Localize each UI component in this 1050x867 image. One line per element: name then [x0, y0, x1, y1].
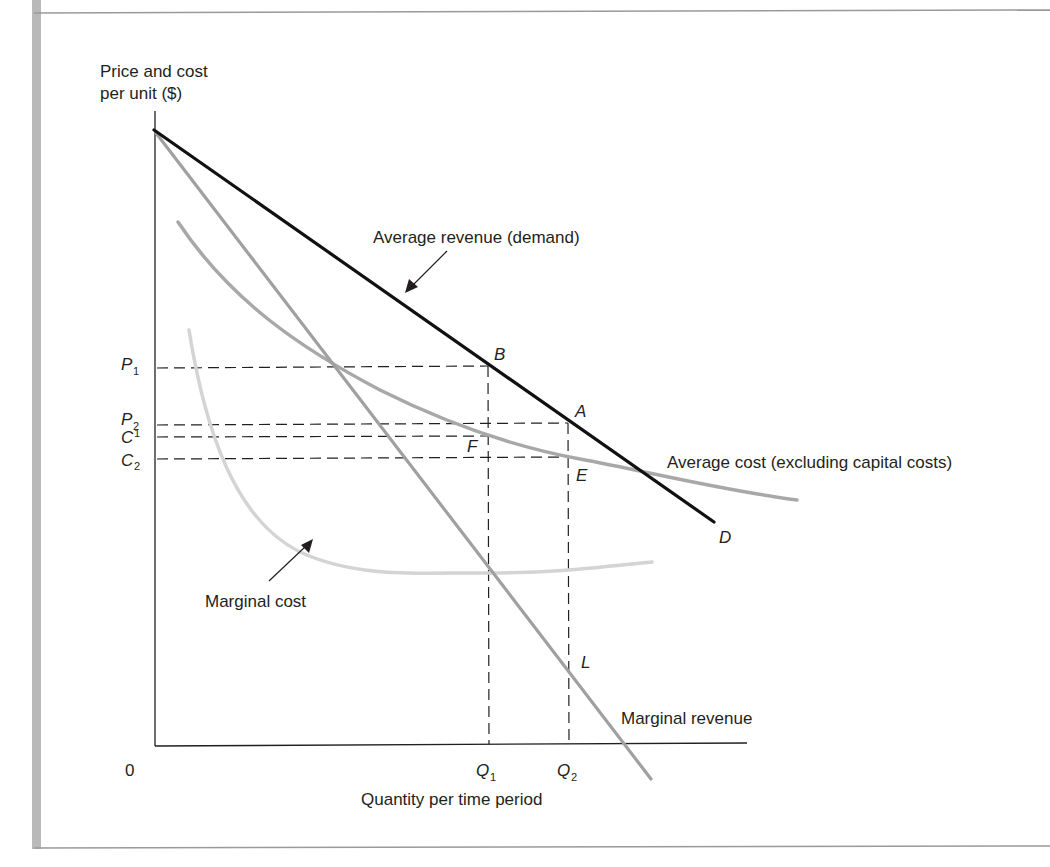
q2-guide — [568, 423, 569, 744]
p2-guide — [157, 423, 568, 425]
q1-guide — [488, 366, 489, 744]
y-tick-c2: C 2 — [121, 451, 140, 472]
x-tick-q2: Q 2 — [557, 761, 577, 783]
p1-guide — [157, 366, 488, 368]
average-cost-label: Average cost (excluding capital costs) — [667, 453, 952, 472]
point-e-label: E — [576, 466, 588, 485]
y-tick-p1: P 1 — [121, 355, 139, 377]
x-tick-q1: Q 1 — [476, 761, 496, 783]
page-side-bar — [32, 0, 41, 849]
demand-arrow-icon — [405, 251, 447, 293]
x-axis-label: Quantity per time period — [361, 790, 542, 809]
bottom-rule — [34, 846, 1050, 848]
point-b-label: B — [494, 345, 505, 364]
demand-line — [154, 130, 714, 522]
point-a-label: A — [574, 402, 586, 421]
marginal-cost-label: Marginal cost — [205, 592, 306, 611]
c2-guide — [157, 457, 568, 459]
guide-lines — [157, 366, 569, 744]
pricing-diagram: Price and cost per unit ($) 0 Quantity p… — [0, 0, 1050, 867]
x-axis — [155, 743, 747, 746]
origin-label: 0 — [125, 761, 134, 780]
y-axis-label-line1: Price and cost — [100, 62, 208, 81]
svg-text:Q: Q — [557, 761, 570, 780]
top-rule — [34, 10, 1050, 13]
demand-end-label: D — [719, 528, 731, 547]
y-tick-c1: C 1 — [121, 427, 140, 447]
svg-text:P: P — [121, 355, 133, 374]
point-l-label: L — [581, 653, 590, 672]
svg-text:P: P — [121, 410, 133, 429]
svg-text:2: 2 — [134, 460, 140, 472]
point-f-label: F — [467, 437, 479, 456]
svg-text:1: 1 — [134, 427, 140, 439]
svg-text:1: 1 — [490, 771, 496, 783]
marginal-revenue-label: Marginal revenue — [621, 709, 752, 728]
svg-text:1: 1 — [133, 365, 139, 377]
svg-text:C: C — [121, 428, 134, 447]
svg-text:2: 2 — [571, 771, 577, 783]
demand-label: Average revenue (demand) — [373, 228, 580, 247]
svg-text:Q: Q — [476, 761, 489, 780]
c1-guide — [157, 436, 488, 437]
y-axis-label-line2: per unit ($) — [100, 84, 182, 103]
svg-text:C: C — [121, 451, 134, 470]
